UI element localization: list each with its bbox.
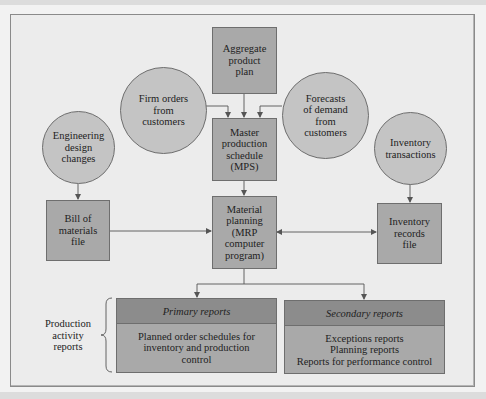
mps-label: Master production schedule (MPS) bbox=[222, 127, 268, 173]
inventory-transactions-label: Inventory transactions bbox=[385, 137, 435, 160]
forecasts-circle: Forecasts of demand from customers bbox=[282, 72, 369, 159]
engineering-changes-circle: Engineering design changes bbox=[42, 111, 115, 184]
primary-reports-box: Primary reports Planned order schedules … bbox=[116, 298, 277, 373]
primary-reports-body: Planned order schedules for inventory an… bbox=[117, 324, 276, 372]
material-planning-label: Material planning (MRP computer program) bbox=[225, 204, 265, 262]
inventory-transactions-circle: Inventory transactions bbox=[374, 112, 447, 185]
primary-reports-title: Primary reports bbox=[117, 299, 276, 324]
firm-orders-circle: Firm orders from customers bbox=[120, 67, 207, 154]
inventory-records-box: Inventory records file bbox=[377, 203, 442, 264]
secondary-reports-body: Exceptions reports Planning reports Repo… bbox=[285, 326, 444, 374]
bill-of-materials-label: Bill of materials file bbox=[59, 213, 97, 248]
forecasts-label: Forecasts of demand from customers bbox=[303, 93, 348, 139]
secondary-reports-title: Secondary reports bbox=[285, 301, 444, 326]
bill-of-materials-box: Bill of materials file bbox=[46, 200, 110, 261]
inventory-records-label: Inventory records file bbox=[389, 216, 430, 251]
secondary-reports-box: Secondary reports Exceptions reports Pla… bbox=[284, 300, 445, 374]
bottom-edge bbox=[0, 392, 486, 399]
firm-orders-label: Firm orders from customers bbox=[139, 93, 188, 128]
production-activity-reports-label: Production activity reports bbox=[36, 318, 100, 353]
engineering-changes-label: Engineering design changes bbox=[53, 130, 104, 165]
mps-box: Master production schedule (MPS) bbox=[212, 118, 277, 181]
material-planning-box: Material planning (MRP computer program) bbox=[212, 196, 277, 269]
aggregate-product-plan-box: Aggregate product plan bbox=[212, 27, 277, 94]
aggregate-product-plan-label: Aggregate product plan bbox=[223, 43, 267, 78]
